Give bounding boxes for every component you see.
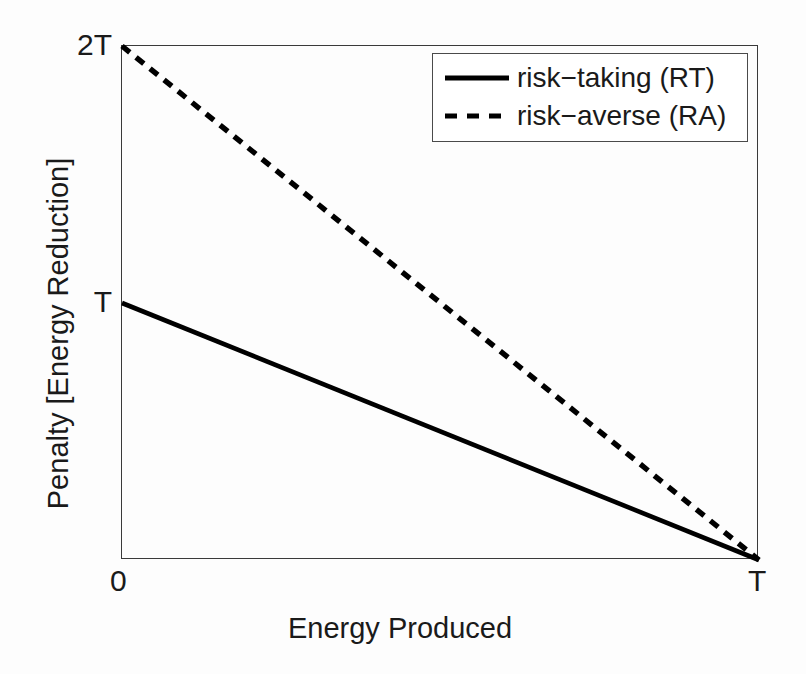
solid-line-icon (444, 68, 510, 88)
y-axis-tick-label-2T: 2T (77, 30, 112, 60)
x-axis-title-text: Energy Produced (288, 612, 512, 645)
y-axis-tick-label-T: T (94, 287, 112, 317)
chart-legend: risk−taking (RT) risk−averse (RA) (432, 53, 748, 142)
legend-entry-risk-averse: risk−averse (RA) (433, 97, 747, 135)
dashed-line-icon (444, 106, 510, 126)
x-axis-tick-label-T: T (748, 566, 766, 596)
legend-label-risk-taking: risk−taking (RT) (517, 64, 715, 92)
x-axis-title: Energy Produced (0, 612, 806, 645)
series-line-risk-taking (122, 303, 759, 560)
legend-entry-risk-taking: risk−taking (RT) (433, 59, 747, 97)
x-axis-tick-label-0: 0 (110, 566, 127, 596)
chart-figure: 2T T 0 T Energy Produced Penalty [Energy… (0, 0, 806, 674)
y-axis-title: Penalty [Energy Reduction] (42, 0, 75, 674)
legend-label-risk-averse: risk−averse (RA) (517, 102, 726, 130)
